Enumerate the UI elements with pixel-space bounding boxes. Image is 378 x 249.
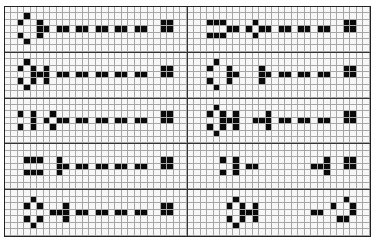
grid-panel [5, 144, 188, 190]
empty-cell [363, 229, 370, 236]
grid-panel [5, 53, 188, 99]
grid-panel [188, 99, 371, 145]
grid-panel [188, 7, 371, 53]
empty-cell [180, 45, 186, 51]
grid-panel [188, 190, 371, 236]
grid-panel [188, 144, 371, 190]
empty-cell [363, 91, 370, 97]
empty-cell [180, 137, 186, 143]
grid-panel [5, 190, 188, 236]
grid-panel [5, 7, 188, 53]
empty-cell [363, 183, 370, 189]
pixel-grid-board [4, 6, 371, 237]
empty-cell [180, 229, 186, 236]
empty-cell [180, 91, 186, 97]
grid-panel [5, 99, 188, 145]
empty-cell [180, 183, 186, 189]
empty-cell [363, 137, 370, 143]
empty-cell [363, 45, 370, 51]
grid-panel [188, 53, 371, 99]
